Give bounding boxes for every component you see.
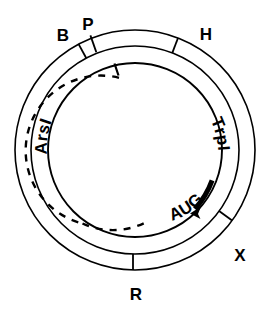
site-tick-H[interactable] — [172, 38, 178, 53]
plasmid-map: B P H X R ArsI TrpI AUG — [0, 0, 273, 316]
site-label-X: X — [234, 246, 246, 265]
middle-backbone-circle — [31, 46, 239, 254]
site-tick-X[interactable] — [219, 211, 232, 220]
site-label-R: R — [130, 285, 142, 304]
plasmid-diagram-canvas: B P H X R ArsI TrpI AUG — [0, 0, 273, 316]
gene-label-trpi: TrpI — [207, 114, 233, 151]
site-tick-B[interactable] — [79, 44, 87, 58]
site-label-P: P — [82, 15, 93, 34]
site-label-B: B — [57, 26, 69, 45]
site-label-H: H — [200, 25, 212, 44]
